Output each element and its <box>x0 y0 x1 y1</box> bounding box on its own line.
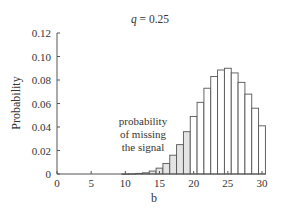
annotation-line-2: of missing <box>120 128 167 140</box>
bar-b-26 <box>231 73 238 174</box>
title-value: = 0.25 <box>137 13 170 25</box>
x-tick-label: 20 <box>188 177 200 189</box>
probability-histogram: 00.020.040.060.080.100.12 051015202530 q… <box>0 0 282 213</box>
y-tick-label: 0.12 <box>32 27 51 39</box>
bar-b-25 <box>224 68 231 174</box>
annotation-line-3: the signal <box>122 141 164 153</box>
bar-shaded-b-17 <box>170 155 177 174</box>
annotation-line-1: probability <box>119 115 168 127</box>
bar-b-20 <box>190 116 197 174</box>
y-tick-label: 0.04 <box>32 121 52 133</box>
y-ticks-group: 00.020.040.060.080.100.12 <box>32 27 60 180</box>
bar-b-22 <box>204 88 211 174</box>
chart-title: q = 0.25 <box>131 13 169 26</box>
y-tick-label: 0.08 <box>32 74 52 86</box>
x-tick-label: 5 <box>88 177 94 189</box>
y-tick-label: 0.10 <box>32 51 52 63</box>
bar-b-21 <box>197 102 204 174</box>
bar-b-28 <box>245 94 252 174</box>
y-axis-label: Probability <box>9 76 23 129</box>
bar-b-30 <box>259 126 266 174</box>
y-tick-label: 0.06 <box>32 98 52 110</box>
x-tick-label: 30 <box>257 177 269 189</box>
x-tick-label: 25 <box>222 177 234 189</box>
x-tick-label: 15 <box>154 177 166 189</box>
y-tick-label: 0 <box>46 168 52 180</box>
x-tick-label: 10 <box>120 177 132 189</box>
bar-shaded-b-16 <box>163 163 170 174</box>
y-tick-label: 0.02 <box>32 145 51 157</box>
bar-shaded-b-19 <box>183 132 190 174</box>
bar-b-24 <box>218 70 225 174</box>
x-tick-label: 0 <box>54 177 60 189</box>
bar-shaded-b-18 <box>177 145 184 174</box>
bar-b-29 <box>252 108 259 174</box>
bar-b-23 <box>211 76 218 174</box>
bar-b-27 <box>238 82 245 174</box>
x-axis-label: b <box>151 191 157 205</box>
